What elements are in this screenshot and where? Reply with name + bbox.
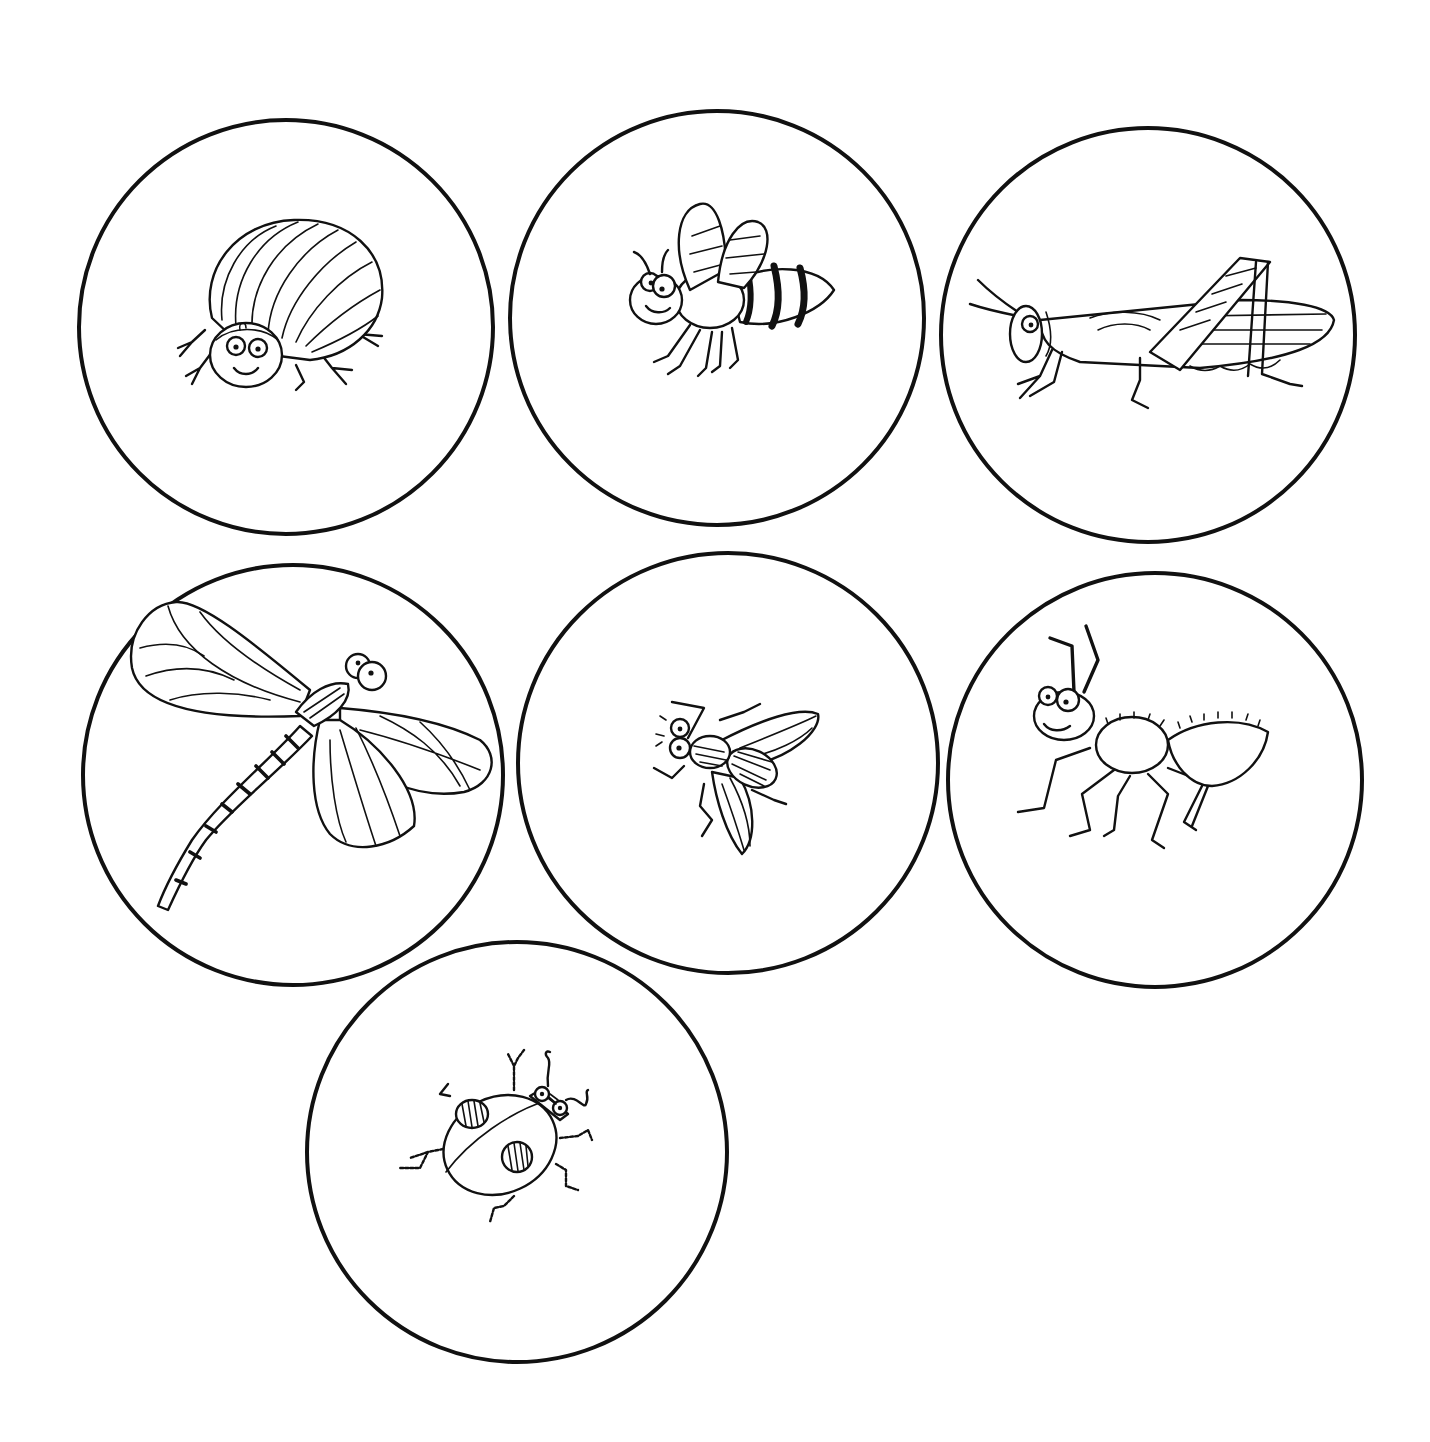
card-dragonfly[interactable] (83, 565, 503, 985)
card-grasshopper[interactable] (941, 128, 1355, 542)
insect-card-sheet (0, 0, 1430, 1442)
card-ladybug[interactable] (307, 942, 727, 1362)
card-ant[interactable] (948, 573, 1362, 987)
card-bee[interactable] (510, 111, 924, 525)
card-fly[interactable] (518, 553, 938, 973)
card-beetle[interactable] (79, 120, 493, 534)
